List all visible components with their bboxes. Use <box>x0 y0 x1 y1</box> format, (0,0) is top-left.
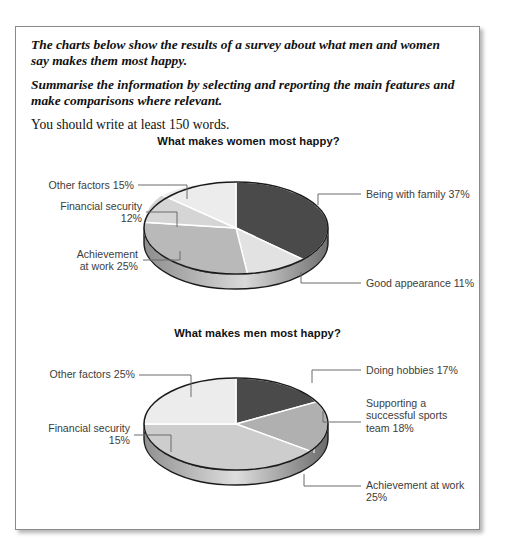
label-financial-security-men: Financial security 15% <box>16 422 130 447</box>
label-good-appearance-women: Good appearance 11% <box>366 277 486 289</box>
label-achievement-work-men: Achievement at work 25% <box>366 479 486 504</box>
pie-women-body <box>144 182 328 289</box>
label-being-with-family-women: Being with family 37% <box>366 188 486 200</box>
label-financial-security-women: Financial security 12% <box>16 200 142 225</box>
pie-chart-women: What makes women most happy? <box>16 135 481 325</box>
task-prompt: The charts below show the results of a s… <box>31 37 456 142</box>
prompt-line-3: You should write at least 150 words. <box>31 117 456 133</box>
prompt-line-1: The charts below show the results of a s… <box>31 37 456 68</box>
slice-other-factors-men <box>144 378 236 424</box>
label-doing-hobbies-men: Doing hobbies 17% <box>366 364 486 376</box>
label-other-factors-men: Other factors 25% <box>16 368 135 380</box>
prompt-line-2: Summarise the information by selecting a… <box>31 77 456 108</box>
label-supporting-sports-team-men: Supporting a successful sports team 18% <box>366 397 476 434</box>
task-card: The charts below show the results of a s… <box>15 26 480 530</box>
pie-chart-men: What makes men most happy? <box>16 327 481 527</box>
pie-chart-women-graphic <box>16 135 481 335</box>
pie-men-body <box>144 378 328 485</box>
label-other-factors-women: Other factors 15% <box>16 179 134 191</box>
label-achievement-work-women: Achievement at work 25% <box>16 248 138 273</box>
